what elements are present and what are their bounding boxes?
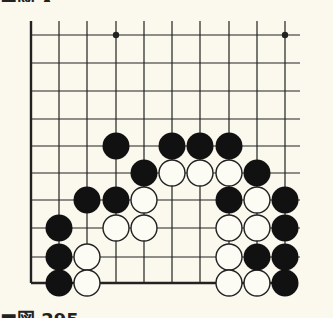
white-stone: [216, 215, 242, 241]
white-stone: [187, 160, 213, 186]
black-stone: [103, 133, 130, 160]
black-stone: [244, 244, 271, 271]
white-stone: [216, 270, 242, 296]
white-stone: [74, 244, 100, 270]
black-stone: [272, 244, 299, 271]
white-stone: [131, 187, 157, 213]
black-stone: [131, 160, 158, 187]
white-stone: [131, 215, 157, 241]
white-stone: [216, 160, 242, 186]
go-board: [0, 0, 333, 318]
black-stone: [187, 133, 214, 160]
go-diagram-canvas: ■図 • ■図 295 …: [0, 0, 333, 318]
black-stone: [74, 187, 101, 214]
black-stone: [103, 187, 130, 214]
black-stone: [159, 133, 186, 160]
white-stone: [74, 270, 100, 296]
black-stone: [272, 270, 299, 297]
black-stone: [46, 215, 73, 242]
white-stone: [216, 244, 242, 270]
black-stone: [244, 160, 271, 187]
star-point: [113, 32, 119, 38]
black-stone: [216, 133, 243, 160]
black-stone: [46, 270, 73, 297]
black-stone: [46, 244, 73, 271]
cropped-caption-bottom: ■図 295 …: [0, 305, 103, 318]
white-stone: [244, 270, 270, 296]
black-stone: [272, 187, 299, 214]
black-stone: [216, 187, 243, 214]
black-stone: [272, 215, 299, 242]
white-stone: [244, 187, 270, 213]
white-stone: [244, 215, 270, 241]
white-stone: [103, 215, 129, 241]
star-point: [282, 32, 288, 38]
white-stone: [159, 160, 185, 186]
